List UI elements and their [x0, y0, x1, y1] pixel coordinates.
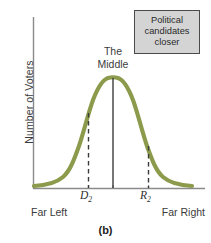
legend-line3: closer [138, 37, 196, 48]
candidate-r2-subscript: 2 [147, 195, 151, 204]
y-axis-title: Number of Voters [23, 27, 35, 177]
legend-line2: candidates [138, 26, 196, 37]
x-axis-far-left-label: Far Left [31, 206, 67, 218]
x-axis-far-right-label: Far Right [162, 206, 205, 218]
voter-distribution-figure: Number of Voters The Middle Political ca… [0, 0, 211, 243]
panel-caption: (b) [0, 224, 211, 236]
candidate-d2-subscript: 2 [88, 195, 92, 204]
candidate-r2-label: R2 [140, 189, 151, 204]
legend-line1: Political [138, 15, 196, 26]
candidate-d2-label: D2 [80, 189, 92, 204]
candidate-r2-letter: R [140, 189, 147, 201]
legend-callout-box: Political candidates closer [134, 10, 200, 54]
middle-annotation-line2: Middle [82, 58, 144, 71]
